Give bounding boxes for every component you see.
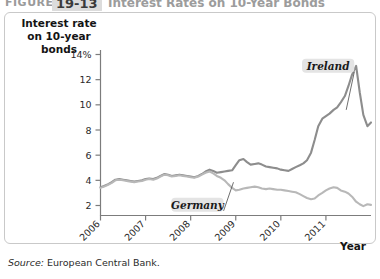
data-series-group [101,66,372,206]
y-tick-group: 2468101214% [70,49,100,211]
series-line-germany [101,172,372,207]
y-tick-label: 10 [79,99,91,110]
x-tick-label: 2009 [212,218,237,243]
series-label-ireland: Ireland [306,60,351,72]
x-tick-label: 2011 [302,218,327,243]
source-note: Source: European Central Bank. [8,257,160,268]
y-tick-label: 14% [70,49,91,60]
y-tick-label: 6 [85,150,91,161]
x-tick-group: 200620072008200920102011 [77,216,327,244]
source-label: Source: [8,257,44,268]
leader-line-germany [224,182,234,211]
series-label-germany: Germany [171,199,225,211]
x-tick-label: 2008 [167,218,192,243]
y-tick-label: 8 [85,125,91,136]
line-chart: 2468101214% 200620072008200920102011 Ire… [0,0,380,279]
x-tick-label: 2006 [77,218,102,243]
series-line-ireland [101,66,372,187]
x-tick-label: 2010 [257,218,282,243]
x-tick-label: 2007 [122,218,147,243]
y-tick-label: 2 [85,200,91,211]
figure-root: FIGURE 19-13 Interest Rates on 10-Year B… [0,0,380,279]
source-value: European Central Bank. [44,257,160,268]
y-tick-label: 4 [85,175,91,186]
y-tick-label: 12 [79,74,91,85]
